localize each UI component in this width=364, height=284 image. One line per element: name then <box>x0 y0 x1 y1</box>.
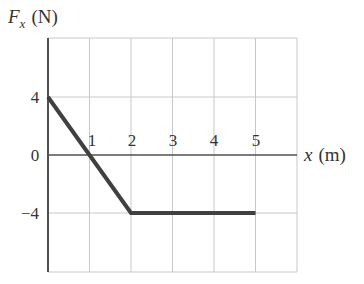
x-tick-5: 5 <box>252 131 261 150</box>
x-tick-2: 2 <box>128 131 137 150</box>
y-tick-0: 0 <box>31 146 40 165</box>
force-position-chart: Fx(N) 4 0 −4 1 2 3 4 5 x(m) <box>0 0 364 284</box>
x-axis-label: x(m) <box>303 144 346 166</box>
x-tick-1: 1 <box>88 131 97 150</box>
y-tick-neg4: −4 <box>21 204 40 223</box>
x-tick-4: 4 <box>210 131 219 150</box>
y-axis-label: Fx(N) <box>7 6 58 31</box>
y-tick-4: 4 <box>31 88 40 107</box>
x-tick-3: 3 <box>169 131 178 150</box>
